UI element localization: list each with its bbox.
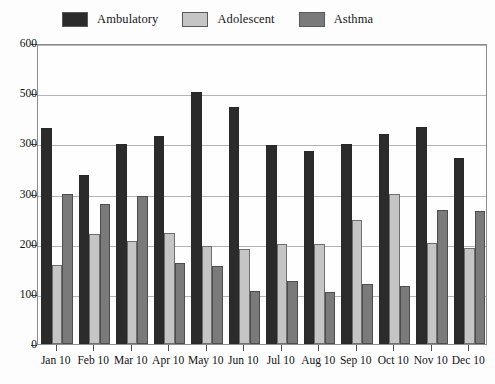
bar[interactable] bbox=[52, 265, 63, 344]
x-tick-mark bbox=[318, 345, 319, 351]
legend-label: Adolescent bbox=[217, 12, 274, 27]
bar[interactable] bbox=[212, 266, 223, 344]
bar-group bbox=[304, 45, 336, 344]
x-tick-mark bbox=[431, 345, 432, 351]
x-tick-label: Dec 10 bbox=[445, 354, 491, 367]
bar[interactable] bbox=[266, 145, 277, 344]
legend-entry[interactable]: Asthma bbox=[299, 12, 374, 27]
bar[interactable] bbox=[454, 158, 465, 344]
bar[interactable] bbox=[202, 246, 213, 344]
bar[interactable] bbox=[89, 234, 100, 344]
y-axis: 6005003003002001000 bbox=[0, 44, 37, 345]
bar-chart: AmbulatoryAdolescentAsthma 6005003003002… bbox=[0, 0, 495, 384]
y-tick-label: 500 bbox=[7, 88, 37, 100]
bar-group bbox=[266, 45, 298, 344]
x-tick-mark bbox=[393, 345, 394, 351]
plot-area bbox=[37, 44, 487, 345]
y-tick-label: 600 bbox=[7, 38, 37, 50]
bar[interactable] bbox=[427, 243, 438, 344]
bar[interactable] bbox=[239, 249, 250, 344]
bar-group bbox=[341, 45, 373, 344]
legend-label: Asthma bbox=[334, 12, 374, 27]
bar[interactable] bbox=[325, 292, 336, 344]
bar[interactable] bbox=[287, 281, 298, 344]
bar-group bbox=[79, 45, 111, 344]
x-tick-mark bbox=[93, 345, 94, 351]
legend-entry[interactable]: Adolescent bbox=[182, 12, 274, 27]
bar[interactable] bbox=[475, 211, 486, 344]
x-tick-mark bbox=[168, 345, 169, 351]
bar[interactable] bbox=[116, 144, 127, 344]
legend-entry[interactable]: Ambulatory bbox=[62, 12, 158, 27]
bar[interactable] bbox=[341, 144, 352, 344]
bar[interactable] bbox=[62, 194, 73, 345]
bars-layer bbox=[38, 45, 486, 344]
bar[interactable] bbox=[175, 263, 186, 344]
bar[interactable] bbox=[416, 127, 427, 344]
bar-group bbox=[454, 45, 486, 344]
bar[interactable] bbox=[154, 136, 165, 344]
bar[interactable] bbox=[277, 244, 288, 344]
bar[interactable] bbox=[464, 248, 475, 344]
x-tick-mark bbox=[281, 345, 282, 351]
bar[interactable] bbox=[362, 284, 373, 344]
bar[interactable] bbox=[389, 194, 400, 345]
bar[interactable] bbox=[379, 134, 390, 344]
bar[interactable] bbox=[127, 241, 138, 344]
bar[interactable] bbox=[137, 196, 148, 344]
bar[interactable] bbox=[352, 220, 363, 344]
bar-group bbox=[416, 45, 448, 344]
bar-group bbox=[154, 45, 186, 344]
bar-group bbox=[229, 45, 261, 344]
x-axis: Jan 10Feb 10Mar 10Apr 10May 10Jun 10Jul … bbox=[37, 345, 487, 384]
bar-group bbox=[116, 45, 148, 344]
chart-legend: AmbulatoryAdolescentAsthma bbox=[0, 6, 495, 32]
legend-swatch-icon bbox=[299, 12, 325, 27]
bar[interactable] bbox=[314, 244, 325, 344]
bar[interactable] bbox=[304, 151, 315, 344]
bar[interactable] bbox=[79, 175, 90, 344]
y-tick-label: 300 bbox=[7, 189, 37, 201]
x-tick-mark bbox=[468, 345, 469, 351]
bar-group bbox=[379, 45, 411, 344]
bar[interactable] bbox=[191, 92, 202, 344]
y-tick-label: 200 bbox=[7, 239, 37, 251]
x-tick-mark bbox=[56, 345, 57, 351]
legend-swatch-icon bbox=[62, 12, 88, 27]
x-tick-mark bbox=[206, 345, 207, 351]
x-tick-mark bbox=[131, 345, 132, 351]
y-tick-label: 100 bbox=[7, 289, 37, 301]
bar-group bbox=[41, 45, 73, 344]
bar[interactable] bbox=[229, 107, 240, 344]
bar[interactable] bbox=[100, 204, 111, 344]
y-tick-label: 0 bbox=[7, 339, 37, 351]
bar[interactable] bbox=[164, 233, 175, 344]
x-tick-mark bbox=[243, 345, 244, 351]
legend-label: Ambulatory bbox=[97, 12, 158, 27]
bar[interactable] bbox=[437, 210, 448, 344]
y-tick-label: 300 bbox=[7, 138, 37, 150]
bar[interactable] bbox=[250, 291, 261, 344]
x-tick-mark bbox=[356, 345, 357, 351]
legend-swatch-icon bbox=[182, 12, 208, 27]
bar[interactable] bbox=[41, 128, 52, 344]
bar-group bbox=[191, 45, 223, 344]
bar[interactable] bbox=[400, 286, 411, 344]
